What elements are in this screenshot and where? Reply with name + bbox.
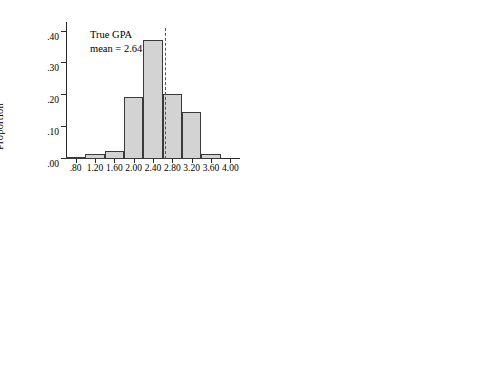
y-axis-tick: [61, 62, 66, 63]
mean-dashed-line: [165, 28, 166, 159]
x-axis-tick-label: .80: [70, 163, 82, 173]
x-axis-tick-label: 3.20: [183, 163, 200, 173]
histogram-bar: [124, 97, 143, 159]
panel-errors-gpa: .00.10.20.30.40.50.60-1.20-.40.00.40.801…: [252, 8, 472, 230]
panel-self-report: .00.10.20.30.40.801.201.602.002.402.803.…: [22, 222, 244, 367]
histogram-bar: [143, 40, 162, 159]
y-axis-tick: [61, 31, 66, 32]
x-axis-tick-label: 2.40: [145, 163, 162, 173]
x-axis-tick-label: 4.00: [222, 163, 239, 173]
x-axis-tick-label: 3.60: [203, 163, 220, 173]
annotation-true-gpa: True GPA mean = 2.64: [90, 28, 142, 56]
figure-gpa-histograms: Proportion .00.10.20.30.40.801.201.602.0…: [0, 0, 477, 373]
x-axis-tick-label: 1.20: [87, 163, 104, 173]
x-axis-tick-label: 2.80: [164, 163, 181, 173]
x-axis-tick-label: 1.60: [106, 163, 123, 173]
annotation-line: mean = 2.64: [90, 42, 142, 56]
y-axis-tick: [61, 126, 66, 127]
histogram-bar: [105, 151, 124, 159]
panel-true-gpa: .00.10.20.30.40.801.201.602.002.402.803.…: [22, 8, 244, 183]
y-axis-tick: [61, 158, 66, 159]
x-axis-tick-label: 2.00: [125, 163, 142, 173]
y-axis-title: Proportion: [0, 30, 5, 150]
y-axis-tick: [61, 94, 66, 95]
y-axis-line-true-gpa: [66, 22, 67, 159]
annotation-line: True GPA: [90, 28, 142, 42]
histogram-bar: [182, 112, 201, 159]
